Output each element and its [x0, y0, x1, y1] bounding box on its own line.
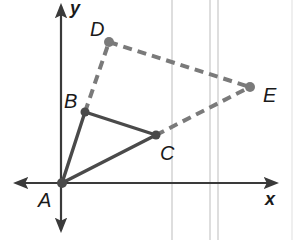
segment-CE [156, 87, 250, 135]
y-axis-label: y [69, 0, 81, 18]
diagram-canvas: x y A B C D E [0, 0, 303, 240]
label-D: D [90, 18, 104, 40]
label-A: A [37, 189, 51, 211]
solid-segments [62, 112, 156, 183]
point-D [104, 37, 114, 47]
label-B: B [64, 90, 77, 112]
label-E: E [263, 84, 277, 106]
label-C: C [160, 142, 175, 164]
segment-BD [85, 42, 109, 112]
point-E [245, 82, 255, 92]
point-B [81, 108, 90, 117]
point-C [152, 131, 161, 140]
x-axis-label: x [264, 189, 276, 209]
vertex-points [57, 37, 255, 188]
segment-BC [85, 112, 156, 135]
segment-DE [109, 42, 250, 87]
point-A [57, 178, 67, 188]
